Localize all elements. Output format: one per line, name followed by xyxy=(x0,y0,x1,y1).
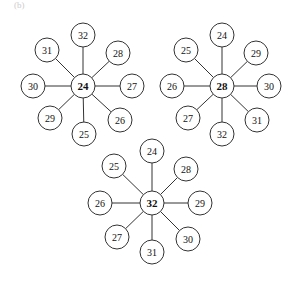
node-label: 32 xyxy=(78,30,88,41)
edge xyxy=(231,61,248,77)
star-graphs-diagram: 2432282726252930312824293031322726253224… xyxy=(0,0,295,281)
node-label: 25 xyxy=(79,129,89,140)
star-32: 322428293031272625 xyxy=(88,139,212,264)
node-label: 24 xyxy=(78,80,90,92)
node-label: 32 xyxy=(217,129,227,140)
leaf-node: 27 xyxy=(105,225,129,249)
leaf-node: 31 xyxy=(245,108,269,132)
leaf-node: 26 xyxy=(160,74,184,98)
leaf-node: 31 xyxy=(140,240,164,264)
edge xyxy=(231,94,249,111)
center-node: 32 xyxy=(140,191,164,215)
node-label: 30 xyxy=(183,234,193,245)
leaf-node: 25 xyxy=(102,154,126,178)
leaf-node: 31 xyxy=(35,38,59,62)
node-label: 32 xyxy=(147,197,159,209)
node-label: 30 xyxy=(28,81,38,92)
center-node: 28 xyxy=(210,74,234,98)
leaf-node: 27 xyxy=(120,74,144,98)
edge xyxy=(160,211,179,230)
node-label: 26 xyxy=(95,198,105,209)
node-label: 24 xyxy=(147,146,157,157)
leaf-node: 29 xyxy=(38,106,62,130)
leaf-node: 24 xyxy=(140,139,164,163)
leaf-node: 29 xyxy=(188,191,212,215)
leaf-node: 25 xyxy=(174,38,198,62)
leaf-node: 24 xyxy=(210,23,234,47)
node-label: 29 xyxy=(45,113,55,124)
edge xyxy=(59,94,75,109)
edge xyxy=(92,94,111,112)
leaf-node: 26 xyxy=(108,108,132,132)
edge xyxy=(160,177,177,194)
edge xyxy=(197,94,214,110)
edge xyxy=(123,174,144,194)
edge xyxy=(55,58,74,77)
leaf-node: 32 xyxy=(71,23,95,47)
leaf-node: 25 xyxy=(72,122,96,146)
node-label: 28 xyxy=(113,48,123,59)
star-28: 282429303132272625 xyxy=(160,23,281,146)
node-label: 24 xyxy=(217,30,227,41)
edge xyxy=(126,211,144,228)
star-24: 243228272625293031 xyxy=(21,23,144,146)
leaf-node: 28 xyxy=(106,41,130,65)
edge xyxy=(92,61,110,78)
edge xyxy=(83,98,84,122)
node-label: 29 xyxy=(251,48,261,59)
node-label: 31 xyxy=(147,247,157,258)
leaf-node: 30 xyxy=(21,74,45,98)
leaf-node: 29 xyxy=(244,41,268,65)
node-label: 26 xyxy=(167,81,177,92)
leaf-node: 28 xyxy=(174,157,198,181)
node-label: 27 xyxy=(127,81,137,92)
node-label: 26 xyxy=(115,115,125,126)
node-label: 31 xyxy=(252,115,262,126)
node-label: 29 xyxy=(195,198,205,209)
edge xyxy=(194,58,213,77)
leaf-node: 26 xyxy=(88,191,112,215)
node-label: 25 xyxy=(181,45,191,56)
node-label: 28 xyxy=(181,164,191,175)
leaf-node: 30 xyxy=(257,74,281,98)
node-label: 30 xyxy=(264,81,274,92)
node-label: 27 xyxy=(112,232,122,243)
node-label: 27 xyxy=(183,113,193,124)
node-label: 31 xyxy=(42,45,52,56)
leaf-node: 27 xyxy=(176,106,200,130)
node-label: 25 xyxy=(109,161,119,172)
node-label: 28 xyxy=(217,80,229,92)
leaf-node: 32 xyxy=(210,122,234,146)
leaf-node: 30 xyxy=(176,227,200,251)
center-node: 24 xyxy=(71,74,95,98)
